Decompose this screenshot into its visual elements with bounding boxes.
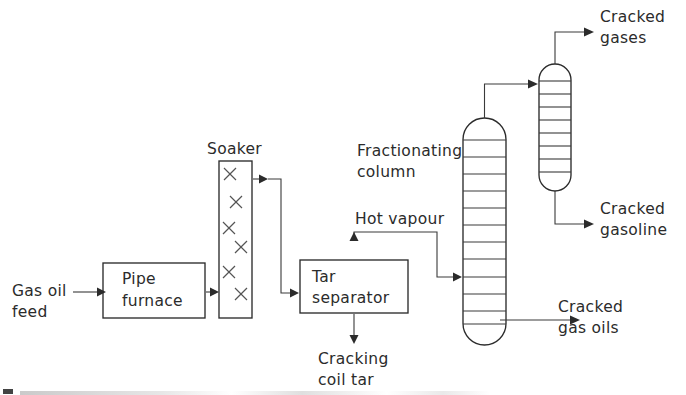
equipment-fractionating-column[interactable] (463, 118, 506, 345)
label-cracked-gases-line1: Cracked (600, 8, 665, 26)
label-cracked-gas-oils-line1: Cracked (558, 298, 623, 316)
page-bottom-smudge (3, 389, 13, 394)
equipment-secondary-column[interactable] (539, 64, 571, 191)
stream-gas-oil-feed (73, 288, 106, 297)
label-fractionating-column-line2: column (357, 163, 416, 181)
label-gas-oil-feed-line2: feed (12, 303, 48, 321)
page-bottom-faint-text (20, 391, 490, 395)
label-tar-separator-line1: Tar (311, 268, 336, 286)
stream-cracked-gasoline (555, 191, 594, 229)
label-cracked-gases-line2: gases (600, 29, 647, 47)
label-pipe-furnace-line1: Pipe (122, 270, 156, 288)
label-pipe-furnace-line2: furnace (122, 292, 183, 310)
label-gas-oil-feed-line1: Gas oil (12, 282, 67, 300)
stream-cracking-coil-tar (350, 314, 359, 344)
stream-furnace-to-soaker (206, 288, 219, 297)
label-cracked-gas-oils-line2: gas oils (558, 319, 619, 337)
process-flow-diagram: Gas oil feed Pipe furnace Soaker Tar sep… (0, 0, 686, 395)
stream-hot-vapour (350, 232, 463, 282)
fractionating-column-trays (463, 140, 506, 324)
label-cracked-gasoline-line2: gasoline (600, 221, 667, 239)
label-cracking-coil-tar-line1: Cracking (318, 350, 389, 368)
soaker-packing-marks (223, 168, 247, 300)
diagram-canvas: Gas oil feed Pipe furnace Soaker Tar sep… (0, 0, 686, 395)
label-cracked-gasoline-line1: Cracked (600, 200, 665, 218)
label-fractionating-column-line1: Fractionating (357, 142, 462, 160)
equipment-soaker[interactable] (219, 161, 252, 318)
stream-cracked-gases (555, 28, 594, 65)
page-bottom-edge (0, 391, 686, 395)
stream-overhead-to-secondary-column (485, 80, 539, 119)
label-soaker: Soaker (207, 140, 262, 158)
stream-soaker-to-tar-separator (253, 175, 299, 298)
label-tar-separator-line2: separator (312, 289, 390, 307)
secondary-column-trays (539, 81, 571, 172)
label-hot-vapour: Hot vapour (355, 210, 445, 228)
label-cracking-coil-tar-line2: coil tar (318, 371, 374, 389)
